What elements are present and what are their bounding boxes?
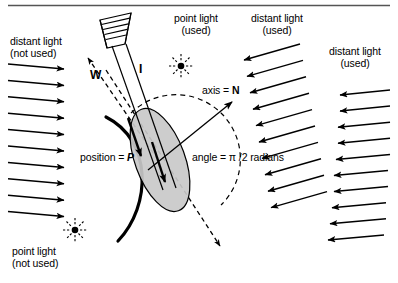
label-point-light-top: point light (used) (174, 13, 218, 36)
label-position-p-prefix: position = (80, 151, 127, 163)
label-distant-light-left-line2: (not used) (10, 48, 62, 60)
label-position-p: position = P (80, 152, 134, 164)
distant-light-arrows-left (8, 64, 64, 217)
label-point-light-top-line1: point light (174, 13, 218, 25)
label-distant-light-right-line2: (used) (329, 58, 381, 70)
label-distant-light-middle-line1: distant light (251, 13, 303, 25)
label-vector-i: I (139, 64, 142, 76)
label-point-light-bottom-line1: point light (12, 246, 58, 258)
label-distant-light-right: distant light (used) (329, 46, 381, 69)
label-distant-light-left: distant light (not used) (10, 36, 62, 59)
label-point-light-bottom: point light (not used) (12, 246, 58, 269)
figure-canvas: distant light (not used) point light (us… (0, 0, 398, 283)
distant-light-arrows-right (328, 90, 390, 240)
spotlight-icon (100, 13, 131, 48)
label-vector-w: W (90, 70, 101, 82)
label-distant-light-middle: distant light (used) (251, 13, 303, 36)
label-axis-n: axis = N (202, 85, 239, 97)
label-axis-n-prefix: axis = (202, 84, 232, 96)
label-point-light-top-line2: (used) (174, 25, 218, 37)
point-light-starburst-icon-top (169, 54, 193, 78)
label-distant-light-right-line1: distant light (329, 46, 381, 58)
label-position-p-symbol: P (127, 151, 134, 163)
point-light-starburst-icon-bottom (63, 218, 87, 242)
label-point-light-bottom-line2: (not used) (12, 258, 58, 270)
label-distant-light-left-line1: distant light (10, 36, 62, 48)
label-distant-light-middle-line2: (used) (251, 25, 303, 37)
distant-light-arrows-middle (244, 44, 327, 208)
label-angle: angle = π /2 radians (192, 152, 284, 164)
label-axis-n-symbol: N (232, 84, 239, 96)
